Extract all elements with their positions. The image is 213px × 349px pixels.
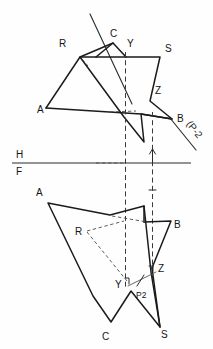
label-H: H xyxy=(16,149,23,160)
label-S-front: S xyxy=(161,329,168,340)
label-F: F xyxy=(16,166,22,177)
label-plane-p2-rotated-group: (P-2 xyxy=(184,118,205,140)
technical-drawing-canvas: R C Y S Z A B (P-2 H xyxy=(0,0,213,349)
edge-a-to-b-top xyxy=(46,108,172,119)
label-R-front: R xyxy=(75,226,82,237)
label-Z-front: Z xyxy=(158,263,164,274)
label-Z-top: Z xyxy=(155,85,161,96)
label-A-top: A xyxy=(37,104,44,115)
front-view-group: A B R Y Z P2 C S xyxy=(36,187,181,342)
peak-c-top xyxy=(96,43,126,57)
projector-group xyxy=(126,52,157,288)
label-B-top: B xyxy=(177,113,184,124)
hidden-r-to-top-front xyxy=(87,221,124,231)
label-A-front: A xyxy=(36,187,43,198)
label-B-front: B xyxy=(174,219,181,230)
label-C-front: C xyxy=(102,331,109,342)
label-Y-front: Y xyxy=(115,279,122,290)
top-view-group: R C Y S Z A B (P-2 xyxy=(37,14,205,150)
label-P2-front: P2 xyxy=(136,290,147,300)
triangle-arc-top xyxy=(46,43,113,108)
label-plane-p2-top: (P-2 xyxy=(184,118,205,140)
label-C-top: C xyxy=(110,28,117,39)
label-R-top: R xyxy=(59,38,66,49)
hidden-top-edge-front xyxy=(112,216,147,222)
reference-line-group: H F xyxy=(12,149,191,177)
label-S-top: S xyxy=(165,43,172,54)
label-Y-top: Y xyxy=(127,38,134,49)
drawing-sheet: R C Y S Z A B (P-2 H xyxy=(0,0,213,349)
hidden-r-to-y-front xyxy=(87,232,127,281)
